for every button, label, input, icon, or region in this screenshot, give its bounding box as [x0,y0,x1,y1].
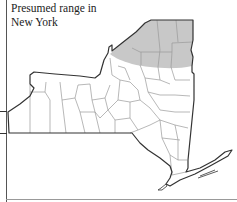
new-york-map [0,0,237,202]
new-york-outline [8,20,232,186]
presumed-range-area [110,20,193,68]
staten-island [158,184,167,190]
